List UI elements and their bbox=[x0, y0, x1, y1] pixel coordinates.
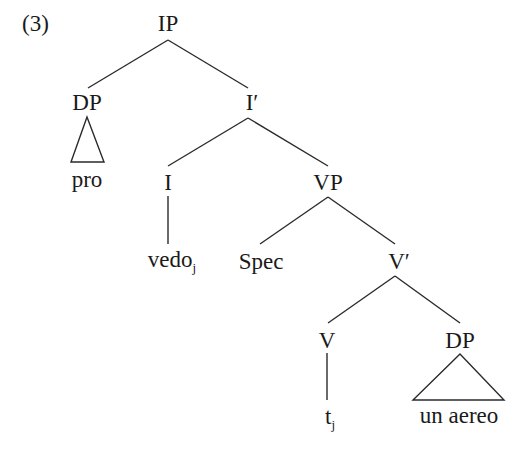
node-i-label: I bbox=[164, 170, 172, 195]
edge-ip-dp bbox=[88, 40, 168, 88]
node-vp-label: VP bbox=[313, 170, 342, 195]
node-un-aereo-label: un aereo bbox=[420, 403, 499, 428]
node-spec-label: Spec bbox=[239, 249, 284, 274]
edge-vp-spec bbox=[260, 197, 328, 244]
node-v-label: V bbox=[319, 328, 336, 353]
node-v-bar-label: V′ bbox=[388, 249, 410, 274]
node-v: V bbox=[319, 329, 336, 352]
node-vedo: vedoj bbox=[148, 248, 196, 271]
node-v-bar: V′ bbox=[388, 250, 410, 273]
node-i-bar: I′ bbox=[246, 91, 259, 114]
triangle-dp-un-aereo bbox=[413, 354, 504, 400]
edge-ip-ibar bbox=[168, 40, 248, 88]
edge-vbar-v bbox=[328, 276, 395, 323]
node-vedo-subscript: j bbox=[193, 260, 197, 275]
edge-ibar-vp bbox=[248, 118, 328, 166]
node-un-aereo: un aereo bbox=[420, 404, 499, 427]
edge-vp-vbar bbox=[328, 197, 395, 244]
edge-vbar-dp bbox=[395, 276, 460, 323]
node-pro: pro bbox=[72, 168, 103, 191]
node-dp-subject: DP bbox=[72, 91, 101, 114]
example-number: (3) bbox=[22, 12, 49, 35]
tree-edges bbox=[0, 0, 532, 461]
node-i-bar-label: I′ bbox=[246, 90, 259, 115]
node-pro-label: pro bbox=[72, 167, 103, 192]
node-ip: IP bbox=[158, 12, 178, 35]
edge-ibar-i bbox=[168, 118, 248, 166]
node-trace-subscript: j bbox=[331, 417, 335, 432]
node-trace: tj bbox=[325, 405, 335, 428]
node-dp-object: DP bbox=[445, 329, 474, 352]
node-i: I bbox=[164, 171, 172, 194]
node-vp: VP bbox=[313, 171, 342, 194]
triangle-dp-pro bbox=[71, 117, 104, 162]
node-dp-object-label: DP bbox=[445, 328, 474, 353]
node-ip-label: IP bbox=[158, 11, 178, 36]
node-spec: Spec bbox=[239, 250, 284, 273]
node-dp-subject-label: DP bbox=[72, 90, 101, 115]
node-vedo-label: vedo bbox=[148, 247, 193, 272]
syntax-tree-diagram: (3) IP DP I′ pro I VP vedoj Spec V′ V DP… bbox=[0, 0, 532, 461]
